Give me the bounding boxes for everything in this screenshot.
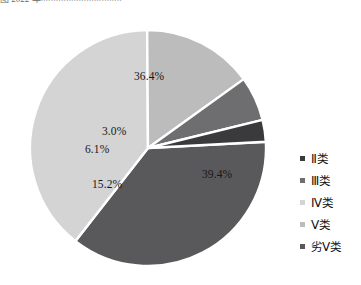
chart-legend: Ⅱ类 Ⅲ类 Ⅳ类 Ⅴ类 劣Ⅴ类 xyxy=(300,147,361,257)
legend-item-label: 劣Ⅴ类 xyxy=(311,238,342,254)
pie-label-v-lei: 15.2% xyxy=(92,178,122,190)
pie-chart-figure: 图 2022 年×××××××××××××××× 36.4% 39.4% 15.… xyxy=(0,0,361,285)
legend-swatch-icon xyxy=(300,178,305,183)
figure-caption: 图 2022 年×××××××××××××××× xyxy=(0,0,230,9)
legend-swatch-icon xyxy=(300,200,305,205)
legend-item-iv-lei[interactable]: Ⅳ类 xyxy=(300,191,361,213)
pie-slices xyxy=(30,30,266,266)
legend-item-label: Ⅱ类 xyxy=(311,150,328,166)
legend-item-label: Ⅳ类 xyxy=(311,194,333,210)
legend-swatch-icon xyxy=(300,156,305,161)
pie-plot-area: 36.4% 39.4% 15.2% 6.1% 3.0% xyxy=(28,18,270,268)
pie-label-lie-v-lei: 36.4% xyxy=(134,70,164,82)
legend-item-label: Ⅴ类 xyxy=(311,216,330,232)
pie-label-iv-lei: 39.4% xyxy=(202,168,232,180)
legend-item-lie-v-lei[interactable]: 劣Ⅴ类 xyxy=(300,235,361,257)
legend-item-v-lei[interactable]: Ⅴ类 xyxy=(300,213,361,235)
pie-label-ii-lei: 3.0% xyxy=(102,125,126,137)
pie-label-iii-lei: 6.1% xyxy=(85,143,109,155)
legend-item-iii-lei[interactable]: Ⅲ类 xyxy=(300,169,361,191)
pie-svg xyxy=(28,18,270,268)
legend-swatch-icon xyxy=(300,222,305,227)
legend-item-ii-lei[interactable]: Ⅱ类 xyxy=(300,147,361,169)
legend-item-label: Ⅲ类 xyxy=(311,172,330,188)
figure-caption-text: 图 2022 年×××××××××××××××× xyxy=(0,0,230,4)
legend-swatch-icon xyxy=(300,244,305,249)
